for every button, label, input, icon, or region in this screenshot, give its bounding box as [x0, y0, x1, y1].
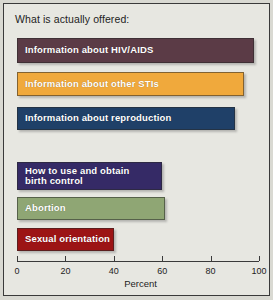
bar-2[interactable]: Information about other STIs: [17, 72, 244, 96]
plot-area: What is actually offered: Information ab…: [4, 4, 269, 295]
x-tick-label-100: 100: [251, 266, 266, 276]
x-axis-label: Percent: [4, 278, 273, 289]
bar-5[interactable]: Abortion: [17, 197, 165, 220]
bar-label-5: Abortion: [18, 203, 66, 214]
x-tick-label-20: 20: [60, 266, 70, 276]
x-tick-label-60: 60: [157, 266, 167, 276]
x-tick-0: [17, 256, 18, 261]
bar-series: Information about HIV/AIDSInformation ab…: [4, 4, 269, 295]
x-tick-20: [65, 256, 66, 261]
x-tick-100: [259, 256, 260, 261]
bar-label-1: Information about HIV/AIDS: [18, 45, 153, 56]
bar-4[interactable]: How to use and obtain birth control: [17, 162, 162, 190]
bar-label-3: Information about reproduction: [18, 113, 171, 124]
x-tick-label-80: 80: [206, 266, 216, 276]
x-tick-label-0: 0: [14, 266, 19, 276]
chart-figure: What is actually offered: Information ab…: [0, 0, 273, 300]
bar-3[interactable]: Information about reproduction: [17, 107, 235, 130]
x-tick-80: [211, 256, 212, 261]
chart-frame: What is actually offered: Information ab…: [3, 3, 270, 296]
x-axis-line: [17, 261, 259, 262]
bar-label-4: How to use and obtain birth control: [18, 166, 129, 187]
bar-label-6: Sexual orientation: [18, 234, 110, 245]
x-tick-60: [162, 256, 163, 261]
x-tick-label-40: 40: [109, 266, 119, 276]
bar-label-2: Information about other STIs: [18, 79, 159, 90]
bar-6[interactable]: Sexual orientation: [17, 228, 114, 251]
bar-1[interactable]: Information about HIV/AIDS: [17, 38, 254, 63]
x-tick-40: [114, 256, 115, 261]
